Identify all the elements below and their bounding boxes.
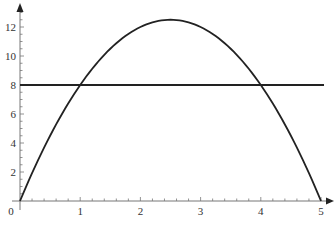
x-tick-label: 2 [138,205,144,217]
y-tick-label: 10 [5,50,17,62]
y-tick-label: 8 [11,79,17,91]
x-axis [12,197,334,205]
y-axis [17,3,25,210]
x-axis-arrow-icon [326,198,334,205]
plot-series [20,20,324,201]
y-tick-label: 12 [5,21,16,33]
y-axis-arrow-icon [17,3,24,12]
x-tick-label: 3 [198,205,204,217]
x-tick-labels: 012345 [8,205,324,217]
x-tick-label: 1 [77,205,83,217]
x-tick-label: 0 [8,205,14,217]
y-tick-labels: 24681012 [5,21,17,178]
y-tick-label: 4 [11,137,17,149]
series-parabola [20,20,321,201]
chart: 012345 24681012 [0,0,335,225]
y-tick-label: 6 [11,108,17,120]
x-tick-label: 5 [318,205,324,217]
x-tick-label: 4 [258,205,264,217]
y-tick-label: 2 [11,166,17,178]
